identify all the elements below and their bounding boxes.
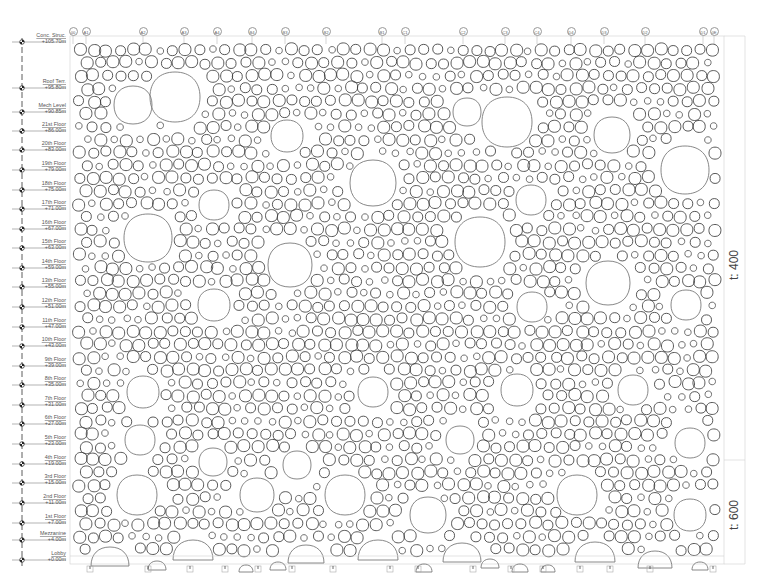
level-elevation: +27.00m xyxy=(45,420,66,426)
footings xyxy=(87,566,716,572)
grid-bubble: B4 xyxy=(248,27,257,36)
level-label: 6th Floor+27.00m xyxy=(0,414,66,434)
level-elevation: +47.00m xyxy=(45,323,66,329)
level-elevation: +59.00m xyxy=(45,264,66,270)
grid-bubble: 00 xyxy=(69,27,78,36)
level-elevation: +23.00m xyxy=(45,440,66,446)
grid-bubble: C2 xyxy=(459,27,468,36)
grid-bubble: B3 xyxy=(281,27,290,36)
level-elevation: +95.80m xyxy=(45,84,66,90)
grid-bubble: C1 xyxy=(401,27,410,36)
level-label: Lobby+0.00m xyxy=(0,550,66,570)
level-label: 10th Floor+43.00m xyxy=(0,336,66,356)
level-elevation: +7.00m xyxy=(48,519,66,525)
grid-bubble: A3 xyxy=(180,27,189,36)
level-label: 12th Floor+51.00m xyxy=(0,297,66,317)
grid-bubble: D4 xyxy=(567,27,576,36)
level-label: 18th Floor+75.00m xyxy=(0,180,66,200)
level-elevation: +79.00m xyxy=(45,166,66,172)
level-elevation: +35.00m xyxy=(45,381,66,387)
level-label: Mezzanine+4.00m xyxy=(0,530,66,550)
level-label: 17th Floor+71.00m xyxy=(0,199,66,219)
level-label: 4th Floor+19.00m xyxy=(0,454,66,474)
level-label: Roof Terr.+95.80m xyxy=(0,78,66,98)
thickness-label: t: 400 xyxy=(727,250,741,280)
level-elevation: +55.00m xyxy=(45,283,66,289)
level-elevation: +90.85m xyxy=(45,108,66,114)
level-elevation: +51.00m xyxy=(45,303,66,309)
level-label: 21st Floor+86.00m xyxy=(0,121,66,141)
level-label: 11th Floor+47.00m xyxy=(0,317,66,337)
level-elevation: +75.00m xyxy=(45,186,66,192)
grid-lines xyxy=(73,36,714,44)
thickness-label: t: 600 xyxy=(727,500,741,530)
level-elevation: +63.00m xyxy=(45,244,66,250)
level-label: 3rd Floor+15.00m xyxy=(0,473,66,493)
level-elevation: +39.00m xyxy=(45,362,66,368)
level-label: 16th Floor+67.00m xyxy=(0,219,66,239)
level-label: 7th Floor+31.00m xyxy=(0,395,66,415)
level-label: Conc. Struc.+105.70m xyxy=(0,32,66,52)
level-elevation: +0.00m xyxy=(48,556,66,562)
level-elevation: +11.00m xyxy=(45,499,66,505)
level-elevation: +71.00m xyxy=(45,205,66,211)
level-label: 5th Floor+23.00m xyxy=(0,434,66,454)
facade-frame xyxy=(70,36,745,564)
level-label: 13th Floor+55.00m xyxy=(0,277,66,297)
grid-bubble: D3 xyxy=(600,27,609,36)
facade-elevation-drawing xyxy=(0,0,767,579)
grid-bubble: D1 xyxy=(699,27,708,36)
level-elevation: +4.00m xyxy=(48,536,66,542)
level-elevation: +19.00m xyxy=(45,460,66,466)
level-elevation: +43.00m xyxy=(45,342,66,348)
level-label: 9th Floor+39.00m xyxy=(0,356,66,376)
level-label: Mech Level+90.85m xyxy=(0,102,66,122)
grid-bubble: C4 xyxy=(533,27,542,36)
level-label: 14th Floor+59.00m xyxy=(0,258,66,278)
level-label: 15th Floor+63.00m xyxy=(0,238,66,258)
level-label: 8th Floor+35.00m xyxy=(0,375,66,395)
level-elevation: +83.00m xyxy=(45,146,66,152)
grid-bubble: D2 xyxy=(641,27,650,36)
grid-bubble: C3 xyxy=(501,27,510,36)
grid-bubble: A4 xyxy=(213,27,222,36)
level-elevation: +86.00m xyxy=(45,127,66,133)
grid-bubble: B1 xyxy=(378,27,387,36)
grid-bubble: 0E xyxy=(710,27,719,36)
level-elevation: +67.00m xyxy=(45,225,66,231)
perforation-pattern xyxy=(70,43,724,572)
level-label: 2nd Floor+11.00m xyxy=(0,493,66,513)
grid-bubble: A2 xyxy=(139,27,148,36)
level-label: 19th Floor+79.00m xyxy=(0,160,66,180)
grid-bubble: B2 xyxy=(322,27,331,36)
grid-bubble: A1 xyxy=(82,27,91,36)
level-elevation: +31.00m xyxy=(45,401,66,407)
level-label: 20th Floor+83.00m xyxy=(0,140,66,160)
level-elevation: +15.00m xyxy=(45,479,66,485)
level-elevation: +105.70m xyxy=(42,38,66,44)
